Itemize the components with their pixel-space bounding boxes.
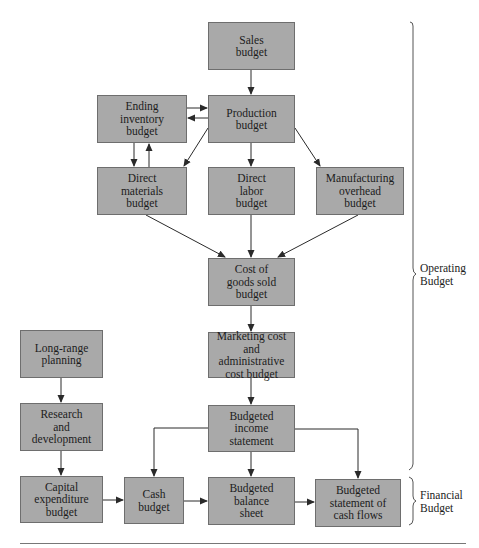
label-financial-budget: Financial Budget (420, 489, 463, 515)
operating-budget-brace (409, 22, 416, 470)
box-marketing-admin-cost-budget: Marketing cost and administrative cost b… (208, 332, 295, 378)
box-cost-of-goods-sold-budget: Cost of goods sold budget (208, 258, 295, 306)
arrow-production-materials (184, 128, 208, 166)
box-sales-budget: Sales budget (208, 22, 295, 70)
arrow-income-cashflows (295, 429, 358, 478)
box-budgeted-statement-of-cash-flows: Budgeted statement of cash flows (315, 479, 401, 527)
box-long-range-planning: Long-range planning (20, 330, 103, 378)
box-ending-inventory-budget: Ending inventory budget (97, 95, 187, 143)
arrow-materials-cogs (146, 215, 225, 257)
arrow-production-overhead (295, 128, 320, 166)
box-direct-materials-budget: Direct materials budget (97, 167, 187, 215)
bottom-rule-divider (20, 543, 466, 544)
financial-budget-brace (409, 477, 416, 525)
box-production-budget: Production budget (208, 95, 295, 143)
arrow-overhead-cogs (278, 215, 358, 257)
box-direct-labor-budget: Direct labor budget (208, 167, 295, 215)
box-manufacturing-overhead-budget: Manufacturing overhead budget (316, 167, 404, 215)
box-cash-budget: Cash budget (124, 477, 184, 524)
box-budgeted-income-statement: Budgeted income statement (208, 405, 295, 452)
box-capital-expenditure-budget: Capital expenditure budget (20, 476, 103, 523)
box-research-and-development: Research and development (20, 403, 103, 451)
box-budgeted-balance-sheet: Budgeted balance sheet (208, 477, 295, 525)
arrow-income-cash (154, 428, 208, 476)
label-operating-budget: Operating Budget (420, 262, 466, 288)
